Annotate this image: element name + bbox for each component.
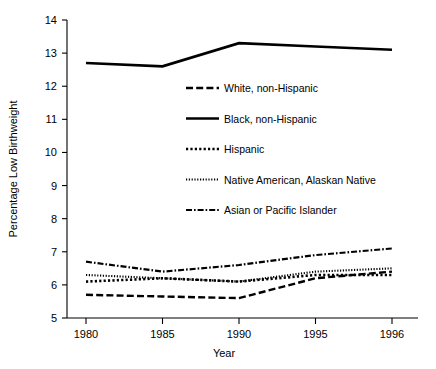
x-axis-tick-label: 1985 xyxy=(150,328,174,340)
y-axis-tick-label: 10 xyxy=(45,146,57,158)
series-line-1 xyxy=(86,43,392,66)
x-axis-tick-label: 1990 xyxy=(227,328,251,340)
legend-label-1: Black, non-Hispanic xyxy=(224,113,317,125)
y-axis-tick-label: 13 xyxy=(45,47,57,59)
y-axis-tick-label: 7 xyxy=(51,246,57,258)
y-axis-tick-label: 8 xyxy=(51,213,57,225)
x-axis-tick-label: 1995 xyxy=(303,328,327,340)
y-axis-tick-labels: 141312111098765 xyxy=(45,14,57,324)
y-axis-title: Percentage Low Birthweight xyxy=(7,101,19,238)
y-axis-tick-label: 5 xyxy=(51,312,57,324)
legend-label-3: Native American, Alaskan Native xyxy=(224,174,376,186)
y-axis-tick-label: 11 xyxy=(46,113,57,125)
x-axis-title: Year xyxy=(213,347,236,359)
x-axis-ticks xyxy=(86,318,392,324)
legend-label-0: White, non-Hispanic xyxy=(224,82,318,94)
y-axis-tick-label: 12 xyxy=(45,80,57,92)
legend-label-4: Asian or Pacific Islander xyxy=(224,204,337,216)
low-birthweight-line-chart: 141312111098765 19801985199019951996 Per… xyxy=(0,0,436,369)
y-axis-tick-label: 6 xyxy=(51,279,57,291)
series-line-4 xyxy=(86,248,392,271)
chart-canvas: 141312111098765 19801985199019951996 Per… xyxy=(0,0,436,369)
x-axis-tick-label: 1980 xyxy=(74,328,98,340)
y-axis-tick-label: 14 xyxy=(45,14,57,26)
y-axis-ticks xyxy=(62,20,67,318)
y-axis-tick-label: 9 xyxy=(51,180,57,192)
chart-legend: White, non-HispanicBlack, non-HispanicHi… xyxy=(186,82,376,216)
x-axis-tick-label: 1996 xyxy=(380,328,404,340)
legend-label-2: Hispanic xyxy=(224,143,264,155)
x-axis-tick-labels: 19801985199019951996 xyxy=(74,328,404,340)
